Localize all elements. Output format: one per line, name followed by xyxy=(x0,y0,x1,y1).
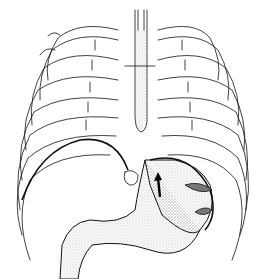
gallbladder xyxy=(124,171,138,186)
esophagus xyxy=(125,10,155,132)
diaphragm xyxy=(22,139,128,200)
anatomy-illustration xyxy=(0,0,261,279)
stomach xyxy=(60,160,212,279)
